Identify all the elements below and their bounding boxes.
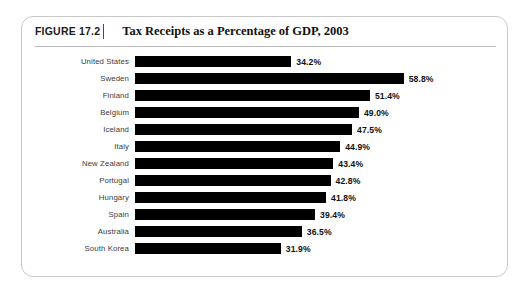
chart-row: Sweden58.8% [22,70,507,87]
chart-row: Australia36.5% [22,223,507,240]
bar-track: 44.9% [135,138,507,155]
bar-track: 34.2% [135,53,507,70]
figure-frame: FIGURE 17.2 Tax Receipts as a Percentage… [21,16,508,277]
category-label: Portugal [22,176,135,185]
category-label: Hungary [22,193,135,202]
bar [135,158,333,169]
chart-row: Finland51.4% [22,87,507,104]
bar-track: 31.9% [135,240,507,257]
category-label: Belgium [22,108,135,117]
bar-value-label: 31.9% [286,244,311,254]
header-rule-divider [35,46,496,47]
bar-track: 43.4% [135,155,507,172]
bar-track: 36.5% [135,223,507,240]
bar-value-label: 43.4% [338,159,363,169]
bar [135,209,315,220]
bar [135,243,281,254]
bar [135,56,291,67]
bar-track: 39.4% [135,206,507,223]
bar-value-label: 47.5% [357,125,382,135]
category-label: South Korea [22,244,135,253]
bar [135,141,340,152]
chart-row: Iceland47.5% [22,121,507,138]
bar-value-label: 42.8% [336,176,361,186]
header-divider [103,24,104,39]
category-label: United States [22,57,135,66]
figure-title: Tax Receipts as a Percentage of GDP, 200… [122,24,349,39]
figure-header: FIGURE 17.2 Tax Receipts as a Percentage… [22,17,507,45]
bar-value-label: 39.4% [320,210,345,220]
chart-row: Hungary41.8% [22,189,507,206]
bar-value-label: 41.8% [331,193,356,203]
bar [135,90,370,101]
bar [135,226,302,237]
category-label: Italy [22,142,135,151]
category-label: Finland [22,91,135,100]
bar-chart: United States34.2%Sweden58.8%Finland51.4… [22,53,507,257]
bar-track: 41.8% [135,189,507,206]
bar-track: 49.0% [135,104,507,121]
bar-value-label: 51.4% [375,91,400,101]
bar-track: 47.5% [135,121,507,138]
chart-row: Italy44.9% [22,138,507,155]
category-label: Sweden [22,74,135,83]
chart-row: Portugal42.8% [22,172,507,189]
bar-value-label: 34.2% [296,57,321,67]
bar-track: 58.8% [135,70,507,87]
chart-row: Spain39.4% [22,206,507,223]
figure-number-label: FIGURE 17.2 [35,25,100,37]
category-label: Australia [22,227,135,236]
category-label: Spain [22,210,135,219]
bar [135,73,404,84]
bar-track: 51.4% [135,87,507,104]
bar-value-label: 36.5% [307,227,332,237]
category-label: Iceland [22,125,135,134]
chart-row: United States34.2% [22,53,507,70]
bar [135,124,352,135]
bar-value-label: 49.0% [364,108,389,118]
chart-row: South Korea31.9% [22,240,507,257]
category-label: New Zealand [22,159,135,168]
chart-row: New Zealand43.4% [22,155,507,172]
bar-value-label: 44.9% [345,142,370,152]
bar-track: 42.8% [135,172,507,189]
bar-value-label: 58.8% [409,74,434,84]
bar [135,175,331,186]
bar [135,192,326,203]
chart-row: Belgium49.0% [22,104,507,121]
bar [135,107,359,118]
